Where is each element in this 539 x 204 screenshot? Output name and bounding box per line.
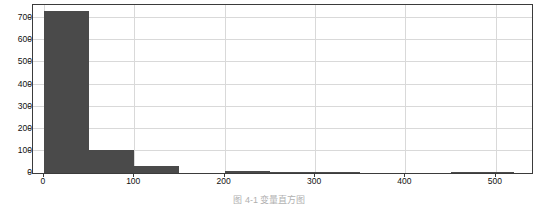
gridline-horizontal: [33, 128, 532, 129]
figure-caption: 图 4-1 变量直方图: [0, 195, 539, 204]
y-tick-mark: [28, 84, 31, 85]
gridline-vertical: [225, 5, 226, 173]
gridline-horizontal: [33, 61, 532, 62]
y-axis: 0100200300400500600700: [0, 0, 32, 178]
x-tick-label: 200: [204, 177, 244, 186]
x-tick-label: 100: [113, 177, 153, 186]
histogram-bar: [134, 166, 179, 173]
gridline-horizontal: [33, 17, 532, 18]
x-tick-label: 300: [294, 177, 334, 186]
y-tick-mark: [28, 150, 31, 151]
x-tick-label: 500: [475, 177, 515, 186]
x-tick-label: 0: [23, 177, 63, 186]
x-tick-mark: [404, 174, 405, 177]
gridline-vertical: [405, 5, 406, 173]
y-tick-mark: [28, 172, 31, 173]
histogram-bar: [89, 150, 134, 173]
gridline-horizontal: [33, 84, 532, 85]
y-tick-mark: [28, 128, 31, 129]
histogram-bar: [496, 172, 514, 173]
gridline-vertical: [134, 5, 135, 173]
histogram-bar: [44, 11, 89, 173]
x-tick-mark: [224, 174, 225, 177]
gridline-horizontal: [33, 39, 532, 40]
gridline-horizontal: [33, 106, 532, 107]
x-tick-mark: [495, 174, 496, 177]
histogram-bar: [315, 172, 360, 173]
histogram-bar: [225, 171, 270, 173]
gridline-vertical: [496, 5, 497, 173]
plot-area: [32, 4, 533, 174]
x-tick-label: 400: [384, 177, 424, 186]
y-tick-mark: [28, 39, 31, 40]
gridline-vertical: [315, 5, 316, 173]
histogram-bar: [451, 172, 496, 173]
histogram-bar: [270, 172, 315, 173]
y-tick-mark: [28, 106, 31, 107]
x-tick-mark: [133, 174, 134, 177]
x-tick-mark: [314, 174, 315, 177]
y-tick-mark: [28, 17, 31, 18]
y-tick-mark: [28, 61, 31, 62]
x-tick-mark: [43, 174, 44, 177]
histogram-figure: 0100200300400500600700 0100200300400500 …: [0, 0, 539, 204]
